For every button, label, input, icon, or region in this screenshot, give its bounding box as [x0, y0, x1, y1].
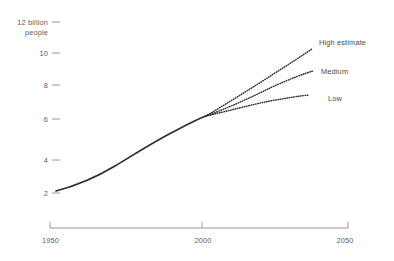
population-projection-chart: 12 billion people 10 8 6 4 2 High estima… — [0, 0, 394, 261]
y-axis-labels: 12 billion people 10 8 6 4 2 — [17, 18, 48, 198]
y-axis-label-10: 10 — [39, 49, 48, 58]
x-axis-label-2000: 2000 — [194, 236, 211, 245]
x-axis — [50, 222, 348, 228]
x-axis-label-1950: 1950 — [42, 236, 59, 245]
series-line-historical — [56, 115, 208, 191]
x-axis-labels: 1950 2000 2050 — [42, 236, 354, 245]
y-axis-unit-label-line1: 12 billion — [17, 18, 48, 27]
y-axis-label-2: 2 — [44, 189, 48, 198]
series-line-low — [206, 95, 309, 116]
x-axis-label-2050: 2050 — [336, 236, 353, 245]
y-axis-ticks — [52, 22, 60, 193]
series-label-high-estimate: High estimate — [319, 38, 366, 47]
series-annotations: High estimate Medium Low — [319, 38, 366, 103]
y-axis-label-8: 8 — [44, 81, 48, 90]
y-axis-label-4: 4 — [44, 156, 48, 165]
series-label-low: Low — [328, 94, 343, 103]
y-axis-label-6: 6 — [44, 115, 48, 124]
chart-canvas: 12 billion people 10 8 6 4 2 High estima… — [0, 0, 394, 261]
series-line-high-estimate — [206, 49, 312, 116]
series-label-medium: Medium — [321, 67, 348, 76]
y-axis-unit-label-line2: people — [25, 28, 48, 37]
series-line-medium — [206, 71, 313, 116]
